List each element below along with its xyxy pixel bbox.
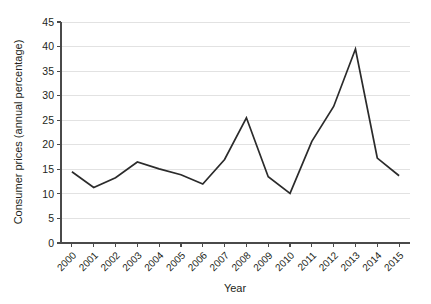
y-tick-label: 40 bbox=[42, 40, 54, 52]
y-tick-label: 45 bbox=[42, 16, 54, 28]
y-tick-label: 30 bbox=[42, 89, 54, 101]
y-tick-label: 10 bbox=[42, 188, 54, 200]
y-tick-label: 25 bbox=[42, 114, 54, 126]
chart-canvas: 051015202530354045 200020012002200320042… bbox=[0, 0, 431, 304]
y-tick-label: 5 bbox=[48, 212, 54, 224]
y-tick-label: 20 bbox=[42, 138, 54, 150]
line-chart: 051015202530354045 200020012002200320042… bbox=[0, 0, 431, 304]
y-axis-label: Consumer prices (annual percentage) bbox=[12, 40, 24, 225]
x-axis-label: Year bbox=[224, 282, 247, 294]
y-tick-label: 35 bbox=[42, 65, 54, 77]
y-tick-label: 15 bbox=[42, 163, 54, 175]
y-tick-label: 0 bbox=[48, 237, 54, 249]
